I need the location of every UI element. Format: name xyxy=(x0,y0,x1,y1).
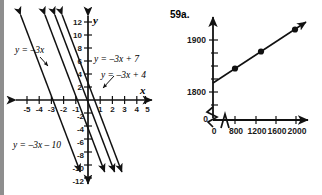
x-tick-label-4: 4 xyxy=(135,105,140,114)
y-tick-label-neg2: -2 xyxy=(77,112,85,121)
leader-line-neg3x xyxy=(40,57,48,66)
y-tick-label-12: 12 xyxy=(73,18,82,27)
y-tick-label-neg4: -4 xyxy=(77,125,85,134)
right-y-tick-label-zero: 0 xyxy=(203,114,208,124)
x-axis-label: x xyxy=(139,84,146,96)
y-tick-label-neg6: -6 xyxy=(77,138,85,147)
y-tick-label-4: 4 xyxy=(78,70,83,79)
y-tick-label-8: 8 xyxy=(78,44,83,53)
coordinate-plane-svg: -5 -4 -3 -2 -1 1 2 3 4 5 12 10 8 6 4 2 -… xyxy=(4,0,162,195)
left-graph-panel: -5 -4 -3 -2 -1 1 2 3 4 5 12 10 8 6 4 2 -… xyxy=(4,0,162,195)
y-tick-label-neg8: -8 xyxy=(77,151,85,160)
right-y-tick-label-1900: 1900 xyxy=(187,35,206,45)
figure-page: -5 -4 -3 -2 -1 1 2 3 4 5 12 10 8 6 4 2 -… xyxy=(0,0,322,195)
equation-label-y-eq-neg3x: y = –3x xyxy=(14,45,45,55)
x-tick-label-1: 1 xyxy=(98,105,103,114)
equation-label-y-eq-neg3x-plus-7: y = –3x + 7 xyxy=(93,54,140,64)
right-y-tick-label-1800: 1800 xyxy=(187,87,206,97)
x-tick-label-neg5: -5 xyxy=(23,105,31,114)
data-point-3 xyxy=(292,26,298,32)
trend-graph-svg: 59a. xyxy=(162,0,322,195)
y-axis-break-zigzag xyxy=(207,107,217,127)
x-tick-label-5: 5 xyxy=(145,105,150,114)
right-x-tick-label-0: 0 xyxy=(212,126,217,136)
equation-label-y-eq-neg3x-minus-10: y = –3x – 10 xyxy=(12,140,61,150)
right-x-tick-label-1600: 1600 xyxy=(268,126,287,136)
data-point-1 xyxy=(232,65,238,71)
y-axis-label: y xyxy=(91,14,98,26)
x-tick-label-3: 3 xyxy=(122,105,127,114)
x-tick-label-neg3: -3 xyxy=(48,105,56,114)
y-tick-label-neg12: -12 xyxy=(72,177,84,186)
equation-label-y-eq-neg3x-plus-4: y = –3x + 4 xyxy=(100,70,146,80)
y-tick-label-2: 2 xyxy=(78,83,83,92)
right-graph-panel: 59a. xyxy=(162,0,322,195)
x-axis-break-zigzag xyxy=(221,114,229,128)
right-x-tick-label-2000: 2000 xyxy=(288,126,307,136)
y-tick-label-10: 10 xyxy=(73,31,82,40)
y-tick-label-6: 6 xyxy=(78,57,83,66)
y-tick-label-neg10: -10 xyxy=(72,164,84,173)
right-x-tick-label-800: 800 xyxy=(229,126,243,136)
right-x-tick-label-1200: 1200 xyxy=(248,126,267,136)
x-tick-label-neg4: -4 xyxy=(36,105,44,114)
data-point-2 xyxy=(258,48,264,54)
x-tick-label-neg2: -2 xyxy=(60,105,68,114)
line-y-eq-neg3x-plus-4 xyxy=(55,15,115,172)
problem-number-label: 59a. xyxy=(170,9,190,20)
x-tick-label-2: 2 xyxy=(110,105,115,114)
